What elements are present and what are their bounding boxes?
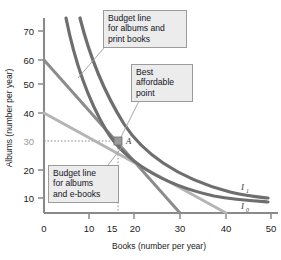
x-tick-label-40: 40 (221, 223, 232, 234)
x-tick-label-20: 20 (130, 223, 141, 234)
y-axis-title: Albums (number per year) (4, 68, 14, 167)
best-affordable-point-marker[interactable]: A (114, 136, 132, 146)
y-tick-label-10: 10 (23, 193, 34, 204)
callout-budget-line-print-books: Budget line for albums and print books (103, 10, 187, 48)
y-tick-label-60: 60 (23, 55, 34, 66)
curve-label-I1-base: I (240, 182, 245, 192)
curve-labels: I 1 I 0 (240, 182, 249, 213)
point-label-A: A (125, 136, 132, 146)
y-tick-label-30: 30 (23, 136, 34, 147)
curve-label-I1-sub: 1 (246, 188, 249, 194)
x-tick-label-50: 50 (266, 223, 277, 234)
callout-best-affordable-point: Best affordable point (131, 64, 193, 102)
x-tick-label-10: 10 (84, 223, 95, 234)
x-axis-tick-labels: 0 10 15 20 30 40 50 (41, 223, 276, 234)
y-tick-label-50: 50 (23, 79, 34, 90)
y-tick-label-20: 20 (23, 165, 34, 176)
y-axis-tick-labels: 70 60 50 40 30 20 10 (23, 26, 34, 204)
curve-label-I0-base: I (240, 201, 245, 211)
y-tick-label-40: 40 (23, 108, 34, 119)
x-tick-label-15: 15 (107, 223, 118, 234)
callout-budget-line-ebooks: Budget line for albums and e-books (48, 165, 119, 203)
chart-figure: 70 60 50 40 30 20 10 0 10 15 20 30 40 50… (0, 0, 281, 260)
x-axis-title: Books (number per year) (112, 241, 206, 251)
x-tick-label-0: 0 (41, 223, 46, 234)
x-tick-label-30: 30 (175, 223, 186, 234)
y-tick-label-70: 70 (23, 26, 34, 37)
curve-label-I0-sub: 0 (246, 207, 249, 213)
